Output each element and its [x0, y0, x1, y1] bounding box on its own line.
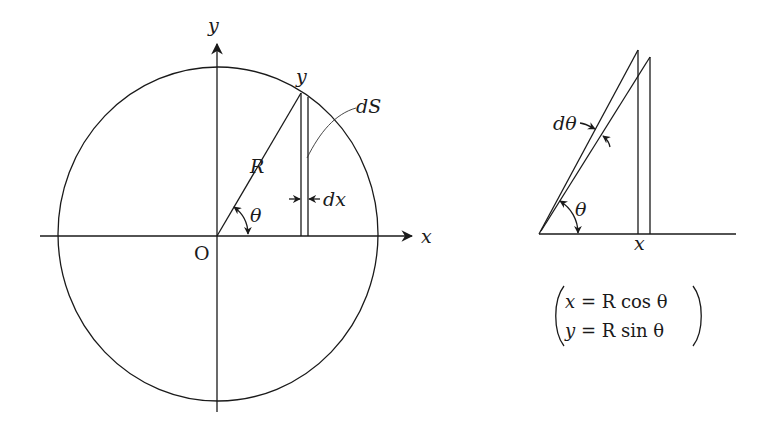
origin-label: O: [194, 242, 210, 264]
y-axis-label: y: [207, 14, 219, 36]
x-axis-label: x: [421, 225, 432, 247]
left-diagram: y x O R y dS dx θ: [40, 14, 432, 412]
dtheta-label: dθ: [553, 112, 577, 134]
circle-integration-figure: y x O R y dS dx θ dθ θ x x = R cos θ y =…: [0, 0, 769, 433]
equation-x: x = R cos θ: [565, 291, 668, 312]
ds-label: dS: [356, 95, 381, 117]
ray-upper: [539, 50, 638, 234]
theta-arc-left: [234, 207, 248, 234]
right-paren: [693, 286, 701, 346]
x-mark-label: x: [634, 232, 645, 254]
right-diagram: dθ θ x x = R cos θ y = R sin θ: [539, 50, 736, 346]
radius-label: R: [249, 155, 264, 177]
dx-label: dx: [323, 188, 346, 210]
theta-label-right: θ: [575, 198, 587, 220]
dtheta-arrow-lower: [603, 136, 610, 147]
theta-label: θ: [250, 204, 262, 226]
point-y-label: y: [295, 65, 307, 87]
left-paren: [556, 286, 564, 346]
dtheta-arrow-upper: [580, 123, 595, 129]
ray-lower: [541, 57, 650, 231]
equation-y: y = R sin θ: [564, 320, 664, 341]
diagram-canvas: y x O R y dS dx θ dθ θ x x = R cos θ y =…: [0, 0, 769, 433]
